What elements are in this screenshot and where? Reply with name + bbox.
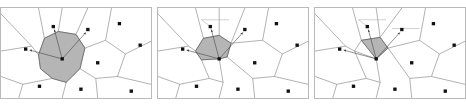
voronoi-diagram-1: [1, 8, 151, 98]
voronoi-panel-left: [0, 7, 152, 99]
voronoi-diagram-3: [315, 8, 465, 98]
center-site: [375, 57, 378, 60]
voronoi-edges-3: [315, 8, 465, 98]
voronoi-panel-right: [314, 7, 466, 99]
voronoi-figure: [0, 0, 466, 106]
voronoi-diagram-2: [158, 8, 308, 98]
voronoi-edges-2: [158, 8, 308, 98]
highlight-cell-2: [196, 35, 232, 59]
center-site: [61, 57, 64, 60]
voronoi-panel-middle: [157, 7, 309, 99]
center-site: [218, 57, 221, 60]
highlight-cell-3: [361, 37, 388, 59]
leader-lines-2: [201, 20, 229, 26]
